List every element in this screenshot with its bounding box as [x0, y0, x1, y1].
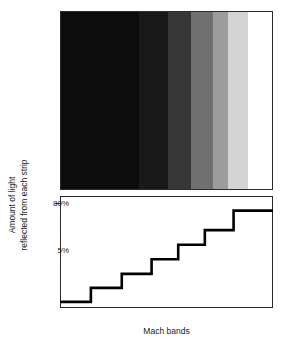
band-1-black — [61, 12, 139, 189]
band-3-dark-gray — [168, 12, 191, 189]
band-7-white — [248, 12, 272, 189]
y-axis-tick-label-low: 5% — [57, 246, 69, 255]
y-axis-tick-label-high: 80% — [53, 199, 69, 208]
y-axis-title-line-1: Amount of light — [6, 144, 18, 266]
band-5-gray — [213, 12, 228, 189]
step-function-svg — [60, 196, 273, 308]
band-2-near-black — [139, 12, 167, 189]
mach-bands-image-panel — [60, 11, 273, 190]
mach-bands-figure: 80% 5% Amount of light reflected from ea… — [0, 0, 290, 347]
y-axis-title-line-2: reflected from each strip — [18, 144, 30, 266]
reflectance-step-plot-panel — [60, 196, 273, 308]
x-axis-title: Mach bands — [60, 326, 273, 336]
mach-bands-strip-container — [61, 12, 272, 189]
y-axis-title: Amount of light reflected from each stri… — [6, 144, 36, 266]
band-4-mid-gray — [191, 12, 213, 189]
band-6-light-gray — [228, 12, 248, 189]
step-function-line — [60, 211, 273, 302]
